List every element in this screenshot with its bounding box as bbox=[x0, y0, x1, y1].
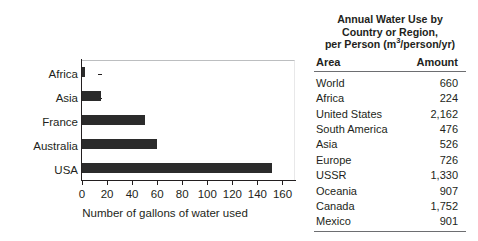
table-title-line-3-suffix: /person/yr) bbox=[400, 38, 455, 50]
table-title-line-3: per Person (m3/person/yr) bbox=[308, 38, 472, 51]
bar-fill bbox=[82, 91, 101, 101]
bar-africa bbox=[82, 60, 85, 84]
y-tick-label-asia: Asia bbox=[56, 91, 78, 105]
bar-australia bbox=[82, 132, 157, 156]
bar-fill bbox=[82, 115, 145, 125]
water-use-table: Area Amount World660Africa224United Stat… bbox=[314, 55, 466, 229]
bar-chart: Location AfricaAsiaFranceAustraliaUSA 02… bbox=[0, 0, 300, 241]
table-row: United States2,162 bbox=[314, 106, 466, 121]
x-tick-mark bbox=[282, 181, 283, 185]
table-row: Oceania907 bbox=[314, 183, 466, 198]
data-table-panel: Annual Water Use by Country or Region, p… bbox=[306, 0, 474, 241]
x-tick-mark bbox=[232, 181, 233, 185]
table-row: USSR1,330 bbox=[314, 168, 466, 183]
y-tick-label-france: France bbox=[42, 115, 78, 129]
bar-fill bbox=[82, 163, 272, 173]
x-tick-mark bbox=[257, 181, 258, 185]
table-title: Annual Water Use by Country or Region, p… bbox=[306, 13, 474, 51]
table-row: World660 bbox=[314, 71, 466, 90]
table-title-line-1: Annual Water Use by bbox=[308, 13, 472, 26]
bar-asia bbox=[82, 84, 101, 108]
table-header-row: Area Amount bbox=[314, 55, 466, 72]
table-row: Canada1,752 bbox=[314, 198, 466, 213]
cell-area: South America bbox=[314, 121, 405, 136]
bar-france bbox=[82, 108, 145, 132]
cell-amount: 726 bbox=[405, 152, 466, 167]
cell-amount: 1,330 bbox=[405, 168, 466, 183]
bar-usa bbox=[82, 156, 272, 180]
cell-amount: 907 bbox=[405, 183, 466, 198]
cell-area: United States bbox=[314, 106, 405, 121]
cell-area: USSR bbox=[314, 168, 405, 183]
x-tick-mark bbox=[207, 181, 208, 185]
cell-area: Canada bbox=[314, 198, 405, 213]
cell-amount: 2,162 bbox=[405, 106, 466, 121]
y-axis-tick-labels: AfricaAsiaFranceAustraliaUSA bbox=[20, 62, 78, 179]
column-header-area: Area bbox=[314, 55, 405, 72]
y-tick-label-australia: Australia bbox=[33, 139, 78, 153]
cell-area: Oceania bbox=[314, 183, 405, 198]
cell-area: Europe bbox=[314, 152, 405, 167]
x-tick-label-160: 160 bbox=[262, 187, 302, 201]
cell-amount: 1,752 bbox=[405, 198, 466, 213]
table-row: Africa224 bbox=[314, 91, 466, 106]
table-row: Asia526 bbox=[314, 137, 466, 152]
x-tick-mark bbox=[157, 181, 158, 185]
table-title-line-2: Country or Region, bbox=[308, 26, 472, 39]
table-row: Mexico901 bbox=[314, 214, 466, 229]
cell-area: World bbox=[314, 71, 405, 90]
table-title-line-3-prefix: per Person (m bbox=[325, 38, 396, 50]
cell-amount: 224 bbox=[405, 91, 466, 106]
cell-area: Asia bbox=[314, 137, 405, 152]
y-tick-label-usa: USA bbox=[54, 163, 78, 177]
x-axis-line bbox=[81, 180, 296, 181]
bar-fill bbox=[82, 67, 85, 77]
cell-area: Africa bbox=[314, 91, 405, 106]
cell-amount: 476 bbox=[405, 121, 466, 136]
table-bottom-rule bbox=[314, 231, 466, 232]
x-tick-mark bbox=[182, 181, 183, 185]
x-axis-title: Number of gallons of water used bbox=[40, 207, 290, 219]
figure-root: Location AfricaAsiaFranceAustraliaUSA 02… bbox=[0, 0, 478, 241]
y-tick-label-africa: Africa bbox=[49, 67, 78, 81]
cell-amount: 901 bbox=[405, 214, 466, 229]
table-row: Europe726 bbox=[314, 152, 466, 167]
table-body: World660Africa224United States2,162South… bbox=[314, 71, 466, 229]
x-tick-mark bbox=[82, 181, 83, 185]
cell-amount: 526 bbox=[405, 137, 466, 152]
cell-amount: 660 bbox=[405, 71, 466, 90]
x-tick-mark bbox=[107, 181, 108, 185]
column-header-amount: Amount bbox=[405, 55, 466, 72]
table-row: South America476 bbox=[314, 121, 466, 136]
cell-area: Mexico bbox=[314, 214, 405, 229]
x-tick-mark bbox=[132, 181, 133, 185]
bar-fill bbox=[82, 139, 157, 149]
